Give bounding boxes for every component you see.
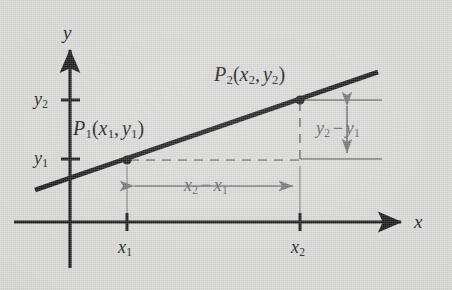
y1-tick-variable: y [34,148,42,168]
y1-tick-label: y1 [34,149,48,167]
y2-tick-variable: y [34,89,42,109]
x2-tick-label: x2 [291,238,305,256]
run-minuend: x [184,175,192,195]
x1-tick-label: x1 [118,238,132,256]
p1-comma: , [114,117,122,139]
diagram-svg [0,0,452,290]
p2-name: P [214,63,226,85]
p2-comma: , [255,63,263,85]
point-p1-dot [122,155,131,164]
y2-tick-subscript: 2 [42,98,48,110]
p1-arg-y: y [122,117,131,139]
y-axis-label: y [63,23,71,42]
x2-tick-variable: x [291,237,299,257]
p2-arg-y: y [263,63,272,85]
x-axis-label: x [414,212,422,231]
rise-minuend: y [316,118,324,138]
rise-subtrahend-subscript: 1 [354,127,360,139]
p1-name: P [73,117,85,139]
rise-operator: − [330,118,346,138]
y2-tick-label: y2 [34,90,48,108]
x1-tick-subscript: 1 [126,246,132,258]
point-p2-dot [295,95,304,104]
run-subtrahend-subscript: 1 [222,184,228,196]
p1-close-paren: ) [137,117,144,139]
point-p2-label: P2(x2,y2) [214,64,285,84]
p1-open-paren: ( [92,117,99,139]
run-subtrahend: x [214,175,222,195]
x2-tick-subscript: 2 [299,246,305,258]
p2-name-subscript: 2 [226,73,233,87]
p2-open-paren: ( [233,63,240,85]
y1-tick-subscript: 1 [42,157,48,169]
p1-name-subscript: 1 [85,127,92,141]
rise-subtrahend: y [346,118,354,138]
run-annotation-label: x2−x1 [184,176,228,194]
p2-close-paren: ) [278,63,285,85]
rise-annotation-label: y2−y1 [316,119,360,137]
figure-canvas: y x y2 y1 x1 x2 P1(x1,y1) P2(x2,y2) x2−x… [0,0,452,290]
x1-tick-variable: x [118,237,126,257]
run-operator: − [198,175,214,195]
point-p1-label: P1(x1,y1) [73,118,144,138]
